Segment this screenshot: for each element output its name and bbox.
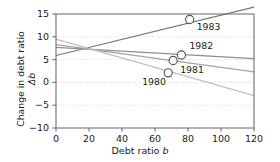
point-label-1980: 1980: [142, 77, 166, 86]
x-tick-label: 40: [106, 134, 138, 144]
x-tick-label: 60: [139, 134, 171, 144]
x-tick-label: 0: [40, 134, 72, 144]
x-tick-label: 100: [205, 134, 237, 144]
point-label-1982: 1982: [189, 41, 213, 50]
x-axis-label: Debt ratio b: [0, 146, 280, 156]
y-axis-label-text: Change in debt ratio: [15, 31, 26, 127]
x-axis-label-symbol: b: [162, 145, 168, 156]
point-label-1981: 1981: [180, 65, 204, 74]
y-tick-label: 15: [22, 9, 49, 19]
x-tick-label: 120: [238, 134, 270, 144]
chart-figure: 020406080100120 151050−5−10 198019811982…: [0, 0, 280, 162]
x-axis-label-text: Debt ratio: [112, 145, 160, 156]
y-axis-label: Change in debt ratio Δb: [15, 24, 37, 134]
x-tick-label: 20: [73, 134, 105, 144]
y-axis-label-symbol: Δb: [26, 73, 37, 85]
point-label-1983: 1983: [197, 22, 221, 31]
x-tick-label: 80: [172, 134, 204, 144]
